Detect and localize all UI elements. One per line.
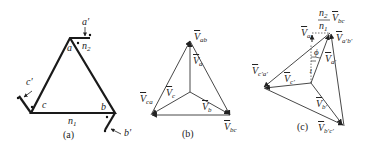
label-phi: ϕ xyxy=(314,47,319,57)
arrow-b-prime xyxy=(111,129,121,134)
label-Vca: Vca xyxy=(140,93,153,106)
label-c-prime: c′ xyxy=(26,76,33,87)
phasor-Vb'c' xyxy=(264,88,343,125)
label-Vc'a': Vc′a′ xyxy=(252,65,268,78)
label-n2: n2 xyxy=(82,40,91,53)
label-Va: Va xyxy=(193,55,203,68)
label-ratio-den: n1 xyxy=(319,20,328,33)
polarity-dot xyxy=(31,106,33,108)
label-ratio-num: n2 xyxy=(319,7,328,20)
label-Vbc: Vbc xyxy=(224,121,238,134)
label-b-prime: b′ xyxy=(124,127,132,138)
caption-c: (c) xyxy=(297,121,308,133)
phi-angle-arc xyxy=(311,57,320,58)
label-Vb: Vb xyxy=(202,101,212,114)
label-Vc': Vc′ xyxy=(284,73,295,86)
label-Vbc: Vbc xyxy=(332,12,346,25)
panel-c-secondary-phasors: n2 n1 Vbc Va Va′b′ ϕ Va′ 1 Vc′a′ Vc′ Vb′… xyxy=(252,7,353,135)
label-n1: n1 xyxy=(68,115,77,128)
label-Vb'c': Vb′c′ xyxy=(318,122,334,135)
label-b: b xyxy=(101,101,106,112)
phasor-Vbc xyxy=(190,41,230,115)
label-one: 1 xyxy=(309,67,313,75)
polarity-dot xyxy=(106,116,108,118)
phasor-Vab xyxy=(151,41,190,115)
polarity-dot xyxy=(89,34,91,36)
panel-a-windings: a′ a n2 c′ c b n1 b′ (a) xyxy=(17,16,132,141)
label-Vb': Vb′ xyxy=(316,98,328,111)
winding-stub-c xyxy=(19,96,31,113)
polarity-dot xyxy=(77,42,79,44)
panel-b-primary-phasors: Vab Va Vc Vca Vb Vbc (b) xyxy=(140,31,238,140)
caption-a: (a) xyxy=(63,129,74,141)
winding-stub-b xyxy=(105,113,115,130)
label-Vab: Vab xyxy=(194,31,208,44)
label-a: a xyxy=(67,42,72,53)
phasor-figure: a′ a n2 c′ c b n1 b′ (a) Vab Va Vc Vca V… xyxy=(0,0,366,148)
label-Vc: Vc xyxy=(166,87,176,100)
polarity-dot xyxy=(17,97,19,99)
label-a-prime: a′ xyxy=(82,16,90,27)
label-Va': Va′ xyxy=(325,53,337,66)
label-c: c xyxy=(42,99,47,110)
label-Va: Va xyxy=(301,27,311,40)
label-Va'b': Va′b′ xyxy=(336,32,353,45)
arrow-c-prime xyxy=(24,91,32,97)
caption-b: (b) xyxy=(182,128,194,140)
polarity-dot xyxy=(104,130,106,132)
